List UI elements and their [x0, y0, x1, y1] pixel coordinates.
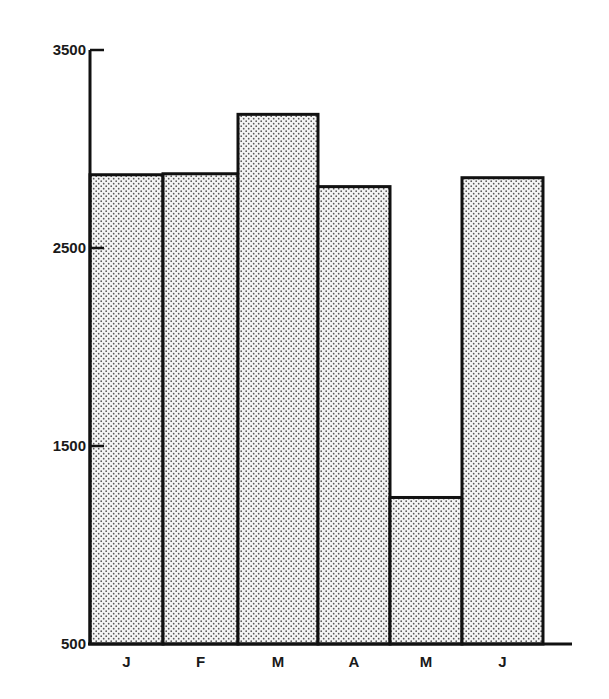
x-category-label: A: [349, 653, 360, 670]
bars-group: [90, 114, 543, 644]
x-category-label: F: [196, 653, 205, 670]
bar-0: [90, 175, 163, 644]
x-category-label: J: [122, 653, 130, 670]
y-tick-label: 3500: [53, 41, 86, 58]
y-tick-label: 1500: [53, 437, 86, 454]
x-category-label: M: [272, 653, 285, 670]
x-category-label: J: [498, 653, 506, 670]
bar-3: [318, 187, 390, 644]
bar-5: [462, 178, 543, 644]
y-tick-label: 2500: [53, 239, 86, 256]
bar-chart: 500150025003500 JFMAMJ: [0, 0, 609, 699]
x-category-label: M: [420, 653, 433, 670]
bar-2: [238, 114, 318, 644]
x-axis-labels: JFMAMJ: [122, 653, 506, 670]
bar-1: [163, 174, 238, 644]
bar-4: [390, 497, 462, 644]
y-tick-label: 500: [61, 635, 86, 652]
